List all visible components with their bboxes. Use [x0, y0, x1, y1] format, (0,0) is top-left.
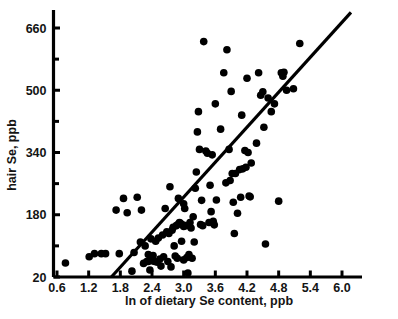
- x-tick-label: 5.4: [302, 281, 319, 295]
- x-axis-title: ln of dietary Se content, ppb: [125, 294, 293, 308]
- chart-background: [0, 0, 398, 319]
- data-point: [196, 146, 204, 154]
- data-point: [290, 85, 298, 93]
- data-point: [133, 193, 141, 201]
- data-point: [166, 183, 174, 191]
- x-tick-label: 6.0: [333, 281, 350, 295]
- data-point: [184, 269, 192, 277]
- scatter-plot-figure: 20180340500660 0.61.21.82.43.03.64.24.85…: [0, 0, 398, 319]
- data-point: [170, 242, 178, 250]
- data-point: [237, 193, 245, 201]
- data-point: [102, 250, 110, 258]
- data-point: [115, 250, 123, 258]
- y-axis-title: hair Se, ppb: [5, 119, 19, 191]
- data-point: [247, 159, 255, 167]
- data-point: [123, 209, 131, 217]
- data-point: [112, 206, 120, 214]
- data-point: [208, 151, 216, 159]
- data-point: [275, 197, 283, 205]
- data-point: [146, 266, 154, 274]
- data-point: [128, 267, 136, 275]
- x-tick-label: 1.2: [80, 281, 97, 295]
- data-point: [296, 40, 304, 48]
- data-point: [120, 195, 128, 203]
- data-point: [212, 100, 220, 108]
- data-point: [174, 255, 182, 263]
- data-point: [226, 177, 234, 185]
- x-tick-label: 4.2: [238, 281, 255, 295]
- data-point: [246, 193, 254, 201]
- y-tick-label: 500: [26, 84, 47, 98]
- data-point: [238, 111, 246, 119]
- y-tick-label: 660: [26, 22, 47, 36]
- data-point: [187, 224, 195, 232]
- data-point: [200, 38, 208, 46]
- data-point: [259, 88, 267, 96]
- data-point: [260, 123, 268, 131]
- data-point: [217, 125, 225, 133]
- data-point: [262, 240, 270, 248]
- data-point: [244, 149, 252, 157]
- x-tick-label: 2.4: [143, 281, 160, 295]
- data-point: [167, 263, 175, 271]
- data-point: [189, 213, 197, 221]
- data-point: [253, 139, 261, 147]
- data-point: [280, 69, 288, 77]
- data-point: [223, 46, 231, 54]
- chart-canvas: 20180340500660 0.61.21.82.43.03.64.24.85…: [0, 0, 398, 319]
- data-point: [198, 197, 206, 205]
- data-point: [181, 205, 189, 213]
- x-tick-label: 3.0: [175, 281, 192, 295]
- data-point: [255, 69, 263, 77]
- data-point: [234, 209, 242, 217]
- data-point: [62, 259, 70, 267]
- x-tick-label: 1.8: [112, 281, 129, 295]
- y-tick-label: 180: [26, 208, 47, 222]
- x-tick-label: 0.6: [48, 281, 65, 295]
- data-point: [190, 238, 198, 246]
- data-point: [161, 205, 169, 213]
- data-point: [157, 262, 165, 270]
- data-point: [229, 199, 237, 207]
- data-point: [195, 108, 203, 116]
- data-point: [213, 196, 221, 204]
- y-tick-label: 20: [33, 271, 47, 285]
- data-point: [138, 206, 146, 214]
- data-point: [206, 181, 214, 189]
- data-point: [194, 128, 202, 136]
- x-tick-label: 3.6: [207, 281, 224, 295]
- data-point: [231, 230, 239, 238]
- data-point: [267, 108, 275, 116]
- data-point: [210, 221, 218, 229]
- data-point: [91, 250, 99, 258]
- data-point: [193, 168, 201, 176]
- data-point: [227, 88, 235, 96]
- data-point: [188, 255, 196, 263]
- y-tick-label: 340: [26, 146, 47, 160]
- data-point: [178, 237, 186, 245]
- data-point: [243, 74, 251, 82]
- data-point: [220, 69, 228, 77]
- x-tick-label: 4.8: [270, 281, 287, 295]
- data-point: [207, 208, 215, 216]
